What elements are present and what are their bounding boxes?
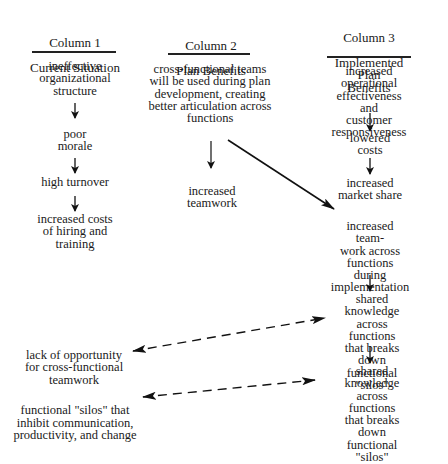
col2-increased-teamwork: increased teamwork [187,185,237,210]
problem-functional-silos: functional "silos" that inhibit communic… [0,392,150,441]
problem-lack-of-opportunity: lack of opportunity for cross-functional… [25,349,123,386]
col1-poor-morale: poor morale [58,128,93,153]
column-1-underline [32,51,116,53]
col2-cross-functional-teams: cross-functional teams will be used duri… [149,63,272,124]
column-1-number: Column 1 [30,37,120,50]
column-2-underline [168,53,250,55]
col3-operational-effectiveness: increased operational effectiveness and … [330,65,409,139]
col1-high-turnover: high turnover [41,176,109,188]
dashed-arrow-lack-opportunity-to-shared-knowledge [133,318,325,351]
col3-increased-market-share: increased market share [338,177,402,202]
problem-functional-silos-text: functional "silos" that inhibit communic… [13,403,136,442]
column-3-underline [327,56,411,58]
col1-ineffective-structure: ineffective organizational structure [39,60,110,97]
column-3-number: Column 3 [330,32,409,45]
col3-increased-teamwork-implementation: increased team- work across functions du… [331,220,409,294]
col3-lowered-costs: lowered costs [350,132,390,157]
column-2-number: Column 2 [176,40,246,53]
dashed-arrow-silos-to-shared-knowledge [143,380,315,397]
col1-increased-costs: increased costs of hiring and training [37,213,112,250]
col2-to-col3-diagonal-arrow [228,140,334,209]
col3-shared-knowledge-2: shared knowledge across functions that b… [334,365,410,463]
